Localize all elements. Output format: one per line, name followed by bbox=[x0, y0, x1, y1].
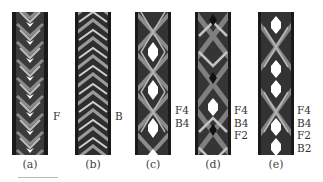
panel-d-label-1: F4 bbox=[234, 104, 248, 117]
panel-b-label-1: B bbox=[115, 110, 123, 123]
panel-d-label-3: F2 bbox=[234, 129, 248, 142]
panel-e-label-2: B4 bbox=[297, 117, 311, 130]
panel-c-pattern bbox=[135, 12, 171, 155]
caption-b: (b) bbox=[75, 158, 111, 171]
caption-d: (d) bbox=[195, 158, 231, 171]
panel-e-labels: F4 B4 F2 B2 bbox=[297, 104, 311, 154]
panel-e-label-4: B2 bbox=[297, 142, 311, 155]
panel-c-label-2: B4 bbox=[175, 117, 189, 130]
panel-d-label-2: B4 bbox=[234, 117, 248, 130]
footnote-rule bbox=[18, 177, 58, 178]
panel-a-pattern bbox=[12, 12, 48, 155]
panel-e-label-1: F4 bbox=[297, 104, 311, 117]
panel-e-label-3: F2 bbox=[297, 129, 311, 142]
panel-d-pattern bbox=[195, 12, 231, 155]
caption-e: (e) bbox=[258, 158, 294, 171]
caption-a: (a) bbox=[12, 158, 48, 171]
panel-c-label-1: F4 bbox=[175, 104, 189, 117]
panel-a-label-1: F bbox=[53, 110, 60, 123]
caption-c: (c) bbox=[135, 158, 171, 171]
panel-e-pattern bbox=[258, 12, 294, 155]
panel-d-labels: F4 B4 F2 bbox=[234, 104, 248, 142]
panel-c-labels: F4 B4 bbox=[175, 104, 189, 129]
panel-b-pattern bbox=[75, 12, 111, 155]
